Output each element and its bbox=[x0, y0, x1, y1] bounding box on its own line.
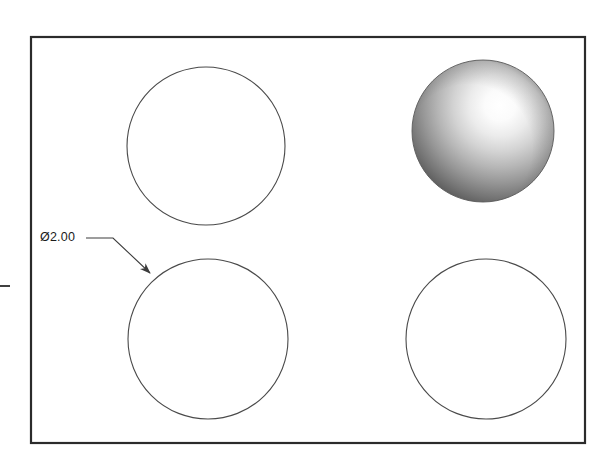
diameter-dimension-label: Ø2.00 bbox=[40, 231, 75, 244]
drawing-canvas: Ø2.00 bbox=[0, 0, 613, 470]
technical-drawing bbox=[0, 0, 613, 470]
sphere-top-right bbox=[412, 60, 554, 202]
circle-bottom-left bbox=[128, 259, 288, 419]
circle-top-left bbox=[127, 67, 285, 225]
leader-line bbox=[86, 238, 150, 273]
sphere-rim-shadow bbox=[412, 60, 554, 202]
circle-bottom-right bbox=[406, 259, 566, 419]
